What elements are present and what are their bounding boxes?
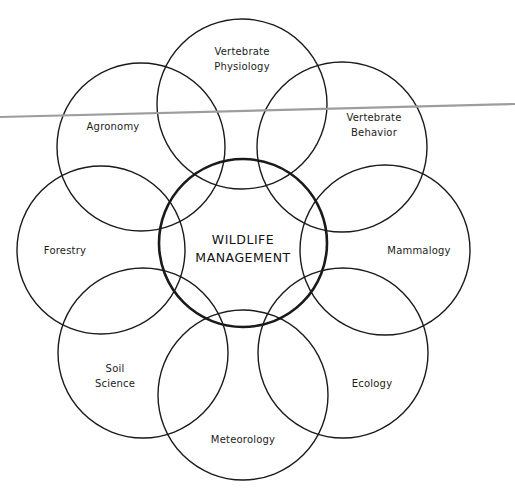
label-line: Agronomy — [87, 119, 140, 134]
label-line: Behavior — [346, 125, 401, 140]
discipline-label-agronomy: Agronomy — [87, 119, 140, 134]
label-line: Mammalogy — [387, 243, 450, 258]
label-line: Physiology — [214, 59, 270, 74]
label-line: Science — [95, 376, 135, 391]
discipline-label-meteorology: Meteorology — [211, 432, 275, 447]
label-line: Soil — [95, 361, 135, 376]
discipline-label-ecology: Ecology — [352, 376, 393, 391]
discipline-circle-soil-science — [58, 268, 228, 438]
center-label-wildlife-management: WILDLIFEMANAGEMENT — [195, 231, 290, 267]
discipline-label-vertebrate-physiology: VertebratePhysiology — [214, 44, 270, 74]
label-line: Vertebrate — [214, 44, 270, 59]
discipline-label-mammalogy: Mammalogy — [387, 243, 450, 258]
label-line: Vertebrate — [346, 110, 401, 125]
label-line: Ecology — [352, 376, 393, 391]
discipline-label-vertebrate-behavior: VertebrateBehavior — [346, 110, 401, 140]
label-line: MANAGEMENT — [195, 249, 290, 267]
gray-scan-line — [0, 104, 515, 117]
label-line: Meteorology — [211, 432, 275, 447]
discipline-label-soil-science: SoilScience — [95, 361, 135, 391]
label-line: Forestry — [44, 243, 86, 258]
discipline-label-forestry: Forestry — [44, 243, 86, 258]
discipline-circle-agronomy — [57, 63, 225, 231]
label-line: WILDLIFE — [195, 231, 290, 249]
discipline-circle-ecology — [258, 268, 428, 438]
discipline-circle-vertebrate-behavior — [257, 62, 427, 232]
discipline-circle-meteorology — [158, 310, 328, 480]
